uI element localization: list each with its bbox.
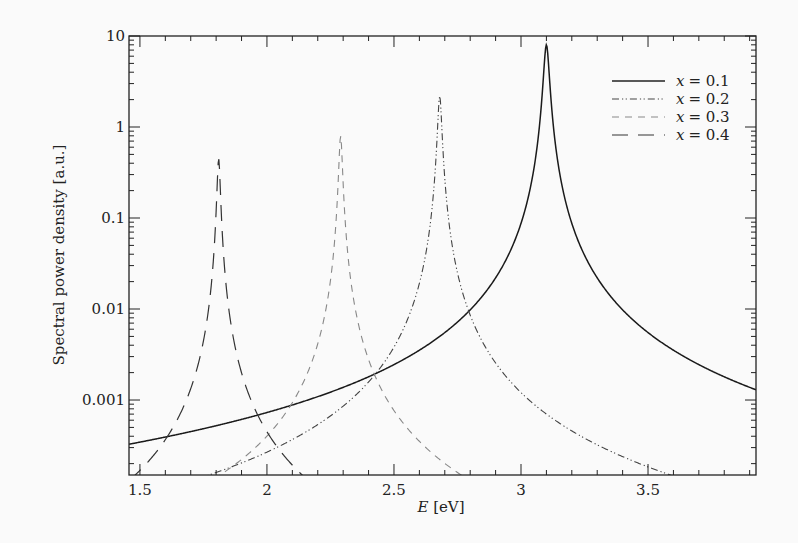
curve-x-0-4 bbox=[129, 159, 756, 502]
plot-frame bbox=[129, 36, 756, 475]
x-tick-label: 3.5 bbox=[636, 481, 660, 499]
x-tick-label: 2.5 bbox=[382, 481, 406, 499]
y-tick-label: 0.01 bbox=[92, 300, 125, 318]
svg-text:x= 0.4: x= 0.4 bbox=[676, 126, 730, 144]
svg-text:x= 0.1: x= 0.1 bbox=[676, 72, 730, 90]
legend: x= 0.1 x= 0.2 x= 0.3 x= 0.4 bbox=[612, 72, 730, 144]
x-tick-label: 1.5 bbox=[128, 481, 152, 499]
curve-x-0-3 bbox=[129, 136, 756, 502]
svg-text:x= 0.2: x= 0.2 bbox=[676, 90, 730, 108]
x-axis-var: E bbox=[416, 498, 428, 516]
legend-item-3: x= 0.4 bbox=[612, 126, 730, 144]
x-axis-title: E [eV] bbox=[416, 498, 464, 516]
y-tick-label: 0.001 bbox=[82, 391, 125, 409]
y-tick-label: 1 bbox=[115, 118, 125, 136]
spectral-density-chart: 1.522.533.50.0010.010.1110 Spectral powe… bbox=[0, 0, 798, 543]
axis-ticks bbox=[129, 36, 756, 475]
legend-item-2: x= 0.3 bbox=[612, 108, 730, 126]
legend-item-0: x= 0.1 bbox=[612, 72, 730, 90]
x-axis-unit: [eV] bbox=[428, 498, 464, 516]
y-tick-label: 0.1 bbox=[101, 209, 125, 227]
x-tick-label: 3 bbox=[516, 481, 526, 499]
curves bbox=[129, 45, 756, 503]
curve-x-0-2 bbox=[129, 96, 756, 500]
y-tick-label: 10 bbox=[106, 27, 125, 45]
legend-item-1: x= 0.2 bbox=[612, 90, 730, 108]
axes-frame bbox=[129, 36, 756, 475]
tick-labels: 1.522.533.50.0010.010.1110 bbox=[82, 27, 660, 499]
y-axis-title: Spectral power density [a.u.] bbox=[50, 145, 68, 366]
svg-text:x= 0.3: x= 0.3 bbox=[676, 108, 730, 126]
x-tick-label: 2 bbox=[262, 481, 272, 499]
